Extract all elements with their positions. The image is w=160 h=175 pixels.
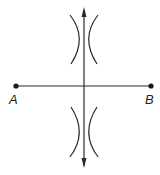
point-b bbox=[148, 83, 153, 88]
lower-arc-from-b bbox=[89, 107, 98, 157]
label-a: A bbox=[8, 92, 18, 107]
lower-arc-from-a bbox=[70, 107, 79, 157]
point-a bbox=[13, 83, 18, 88]
bisector-diagram: A B bbox=[0, 0, 160, 175]
arrow-up-icon bbox=[82, 7, 87, 17]
label-b: B bbox=[145, 92, 154, 107]
arrow-down-icon bbox=[82, 158, 87, 168]
upper-arc-from-a bbox=[70, 15, 79, 64]
upper-arc-from-b bbox=[89, 15, 98, 64]
